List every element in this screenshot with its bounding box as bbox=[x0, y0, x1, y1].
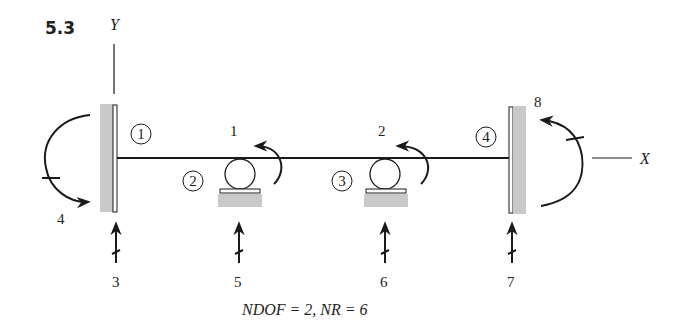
restraint-3-label: 3 bbox=[112, 274, 120, 290]
x-axis: X bbox=[592, 150, 651, 167]
restraint-5-reaction-arrow: 5 bbox=[234, 224, 243, 290]
joint-label-4: 4 bbox=[476, 127, 496, 147]
right-fixed-support bbox=[509, 106, 526, 214]
problem-number: 5.3 bbox=[45, 18, 75, 38]
caption: NDOF = 2, NR = 6 bbox=[241, 301, 368, 318]
joint-label-2: 2 bbox=[183, 171, 203, 191]
dof-2-label: 2 bbox=[378, 123, 386, 139]
left-fixed-support bbox=[100, 104, 117, 212]
svg-text:4: 4 bbox=[482, 129, 490, 145]
restraint-5-label: 5 bbox=[234, 274, 242, 290]
restraint-4-moment-arrow: 4 bbox=[42, 115, 90, 227]
joint-label-1: 1 bbox=[131, 124, 151, 144]
joint-label-3: 3 bbox=[332, 171, 352, 191]
restraint-4-label: 4 bbox=[57, 211, 65, 227]
roller-support-joint-3 bbox=[364, 159, 408, 207]
svg-text:1: 1 bbox=[137, 126, 145, 142]
restraint-7-reaction-arrow: 7 bbox=[507, 224, 516, 290]
restraint-7-label: 7 bbox=[507, 274, 515, 290]
restraint-8-label: 8 bbox=[534, 94, 542, 110]
svg-text:2: 2 bbox=[189, 173, 197, 189]
svg-text:3: 3 bbox=[338, 173, 346, 189]
beam-diagram: 5.3 Y X 1 2 3 bbox=[0, 0, 681, 334]
restraint-6-reaction-arrow: 6 bbox=[380, 224, 389, 290]
restraint-3-reaction-arrow: 3 bbox=[112, 224, 120, 290]
restraint-8-moment-arrow: 8 bbox=[534, 94, 584, 206]
y-axis-label: Y bbox=[110, 16, 121, 33]
y-axis: Y bbox=[110, 16, 121, 94]
roller-support-joint-2 bbox=[218, 159, 262, 207]
dof-1-label: 1 bbox=[230, 123, 238, 139]
x-axis-label: X bbox=[639, 150, 651, 167]
restraint-6-label: 6 bbox=[380, 274, 388, 290]
